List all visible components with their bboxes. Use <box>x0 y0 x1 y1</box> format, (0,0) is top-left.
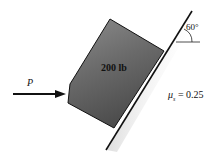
force-label-p: P <box>27 77 33 88</box>
block-200lb <box>68 19 164 128</box>
friction-coefficient-label: μs = 0.25 <box>168 89 204 102</box>
block-weight-label: 200 lb <box>101 62 127 73</box>
mu-value: = 0.25 <box>178 89 204 100</box>
force-arrow-p <box>13 90 66 98</box>
incline-angle-label: 60° <box>186 22 199 32</box>
diagram-canvas: 200 lb P 60° μs = 0.25 <box>0 0 224 160</box>
mu-subscript: s <box>173 96 175 102</box>
